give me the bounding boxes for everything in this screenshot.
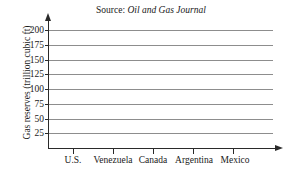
x-axis-tick-label-mexico: Mexico: [220, 155, 249, 166]
plot-area: [49, 30, 273, 148]
y-axis-tick-label: 100: [18, 84, 44, 94]
y-axis-tick: [45, 89, 49, 90]
y-axis-tick-label: 50: [18, 114, 44, 124]
x-axis-tick: [153, 149, 154, 154]
x-axis-line: [48, 148, 276, 149]
x-axis-tick-label-us: U.S.: [65, 155, 82, 166]
y-axis-tick: [45, 119, 49, 120]
gridline: [49, 119, 273, 120]
arrow-right-icon: [275, 145, 283, 151]
y-axis-tick: [45, 104, 49, 105]
source-journal-name: Oil and Gas Journal: [127, 5, 205, 15]
x-axis-tick: [233, 149, 234, 154]
gridline: [49, 104, 273, 105]
chart-figure: Source: Oil and Gas Journal Gas reserves…: [0, 0, 288, 173]
gridline: [49, 74, 273, 75]
x-axis-tick-label-venezuela: Venezuela: [93, 155, 132, 166]
y-axis-tick: [45, 30, 49, 31]
x-axis-tick-label-argentina: Argentina: [175, 155, 213, 166]
y-axis-tick: [45, 45, 49, 46]
x-axis-tick: [113, 149, 114, 154]
y-axis-tick: [45, 60, 49, 61]
y-axis-tick: [45, 133, 49, 134]
y-axis-tick-label: 200: [18, 25, 44, 35]
x-axis-tick: [193, 149, 194, 154]
y-axis-tick-label: 175: [18, 40, 44, 50]
gridline: [49, 133, 273, 134]
x-axis-tick: [73, 149, 74, 154]
y-axis-tick-label: 25: [18, 128, 44, 138]
y-axis-tick-label: 150: [18, 55, 44, 65]
source-label: Source:: [96, 5, 125, 15]
y-axis-tick: [45, 74, 49, 75]
y-axis-tick-label: 125: [18, 69, 44, 79]
x-axis-tick-label-canada: Canada: [139, 155, 168, 166]
y-axis-line: [48, 20, 49, 149]
chart-source-note: Source: Oil and Gas Journal: [96, 4, 284, 16]
y-axis-tick-label: 75: [18, 99, 44, 109]
gridline: [49, 30, 273, 31]
gridline: [49, 60, 273, 61]
gridline: [49, 45, 273, 46]
gridline: [49, 89, 273, 90]
arrow-up-icon: [45, 13, 51, 21]
